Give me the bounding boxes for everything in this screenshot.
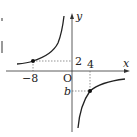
tick-label-neg8: −8 [22,72,38,85]
y-axis-label: y [75,10,83,23]
x-axis-label: x [123,57,130,70]
point-neg8-2 [31,59,35,63]
origin-label: O [63,72,72,85]
curve-branch-left [17,16,64,64]
graph-canvas: y x O −8 2 4 b [0,0,137,137]
tick-label-b: b [64,85,71,98]
point-4-b [88,89,92,93]
tick-label-2: 2 [75,55,82,68]
curve-branch-right [78,79,125,128]
y-axis-arrow-icon [70,13,74,19]
tick-label-4: 4 [87,58,94,71]
